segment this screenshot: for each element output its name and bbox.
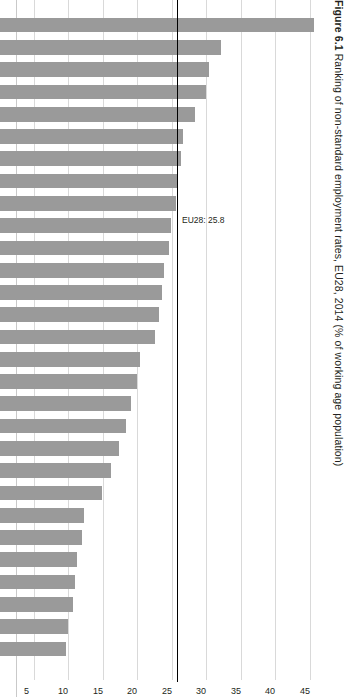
bar-IE[interactable] — [0, 307, 159, 322]
figure-title-text: Ranking of non-standard employment rates… — [333, 51, 345, 467]
bar-HR[interactable] — [0, 486, 102, 501]
figure-number: Figure 6.1 — [333, 0, 345, 51]
axis-tick-label-5: 5 — [24, 686, 29, 696]
bar-SK[interactable] — [0, 530, 82, 545]
axis-tick-label-45: 45 — [300, 686, 310, 696]
bar-PT[interactable] — [0, 352, 140, 367]
bar-BE[interactable] — [0, 218, 171, 233]
axis-tick-label-10: 10 — [58, 686, 68, 696]
bar-FI[interactable] — [0, 263, 164, 278]
axis-tick-label-15: 15 — [93, 686, 103, 696]
bar-LT[interactable] — [0, 597, 73, 612]
axis-baseline — [16, 0, 17, 697]
bar-IT[interactable] — [0, 241, 169, 256]
bar-ES[interactable] — [0, 196, 176, 211]
bar-PL[interactable] — [0, 151, 181, 166]
bar-DK[interactable] — [0, 129, 183, 144]
bar-DE[interactable] — [0, 40, 221, 55]
bar-MT[interactable] — [0, 419, 126, 434]
axis-tick-label-20: 20 — [127, 686, 137, 696]
bar-HU[interactable] — [0, 508, 84, 523]
figure-container: Figure 6.1 Ranking of non-standard emplo… — [0, 0, 351, 697]
bar-SI[interactable] — [0, 463, 111, 478]
gridline-45 — [310, 0, 311, 680]
gridline-25 — [172, 0, 173, 680]
bar-LU[interactable] — [0, 396, 131, 411]
eu28-reference-label: EU28: 25.8 — [182, 215, 225, 225]
figure-title: Figure 6.1 Ranking of non-standard emplo… — [333, 0, 345, 690]
gridline-35 — [241, 0, 242, 680]
bar-FR[interactable] — [0, 285, 162, 300]
bar-RO[interactable] — [0, 552, 77, 567]
axis-tick-label-35: 35 — [231, 686, 241, 696]
bar-GR[interactable] — [0, 374, 137, 389]
eu28-reference-line — [177, 0, 179, 682]
axis-tick-label-25: 25 — [162, 686, 172, 696]
bar-CZ[interactable] — [0, 441, 119, 456]
bar-UK[interactable] — [0, 107, 195, 122]
gridline-30 — [206, 0, 207, 680]
plot-area: 454035302520151050NLDEATSEUKDKPLEUESBEIT… — [16, 0, 326, 697]
bar-EE[interactable] — [0, 575, 75, 590]
bar-BG[interactable] — [0, 642, 66, 657]
bar-LV[interactable] — [0, 619, 68, 634]
bar-CY[interactable] — [0, 330, 156, 345]
axis-tick-label-40: 40 — [265, 686, 275, 696]
bar-SE[interactable] — [0, 85, 206, 100]
plot-inner: 454035302520151050NLDEATSEUKDKPLEUESBEIT… — [16, 0, 326, 697]
bar-EU[interactable] — [0, 174, 178, 189]
gridline-40 — [275, 0, 276, 680]
axis-tick-label-30: 30 — [196, 686, 206, 696]
bar-NL[interactable] — [0, 18, 314, 33]
